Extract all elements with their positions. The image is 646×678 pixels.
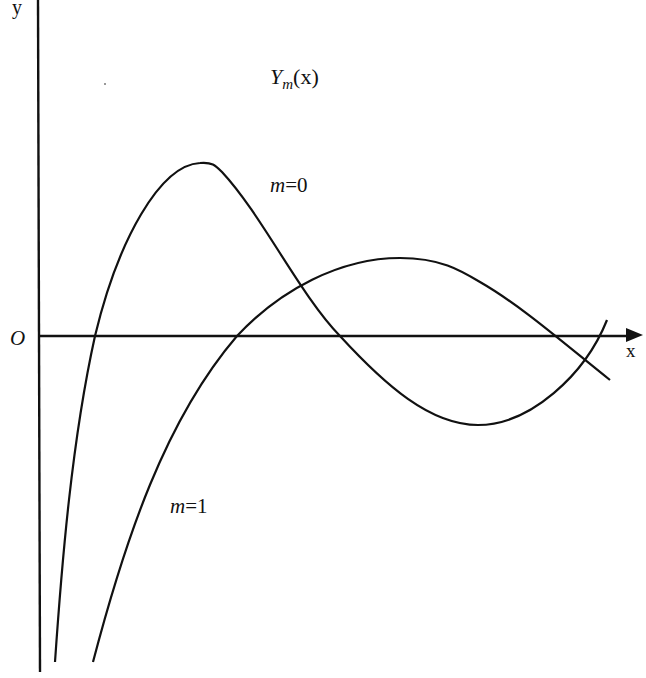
speck <box>104 83 106 85</box>
origin-label: O <box>10 326 25 350</box>
legend-m0: m=0 <box>270 173 308 197</box>
legend-m1: m=1 <box>170 494 208 518</box>
curve-m0 <box>55 163 607 662</box>
chart-title: Ym(x) <box>270 64 319 92</box>
x-axis-label: x <box>626 340 636 361</box>
y-axis-label: y <box>12 0 22 19</box>
curve-m1 <box>93 258 610 662</box>
bessel-chart: y O x Ym(x) m=0 m=1 <box>0 0 646 678</box>
